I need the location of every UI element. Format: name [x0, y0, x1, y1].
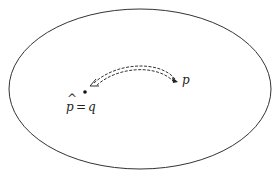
equals-sign: = — [76, 100, 86, 114]
point-p-label: p — [182, 73, 190, 87]
diagram-canvas: p ^ p = q — [0, 0, 279, 176]
region-ellipse — [9, 9, 271, 169]
point-q-dot — [83, 90, 87, 94]
arrowhead-icon — [172, 77, 178, 83]
point-q-hat-label: p — [66, 100, 74, 114]
dashed-arc-arrow — [93, 66, 175, 86]
point-q-label: q — [88, 100, 96, 114]
